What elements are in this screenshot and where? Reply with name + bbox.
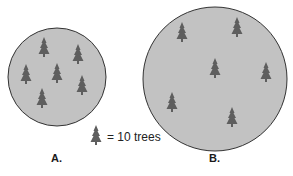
plot-b [143,7,287,151]
diagram-canvas [0,0,293,176]
legend-text: = 10 trees [107,130,161,144]
legend-tree-icon [91,125,102,145]
plot-a-label: A. [51,152,62,164]
plot-b-label: B. [209,152,220,164]
plot-a [8,28,106,126]
